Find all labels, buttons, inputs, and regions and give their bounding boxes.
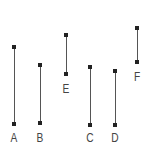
segment-e-bottom-endpoint <box>64 72 68 76</box>
segment-e-top-endpoint <box>64 33 68 37</box>
segment-f-bottom-endpoint <box>135 60 139 64</box>
segment-b-label: B <box>34 132 46 144</box>
segment-b-line <box>40 65 41 123</box>
segment-c-label: C <box>84 132 96 144</box>
segment-b-top-endpoint <box>38 63 42 67</box>
segment-f-line <box>137 28 138 62</box>
segment-f-top-endpoint <box>135 26 139 30</box>
segment-b-bottom-endpoint <box>38 121 42 125</box>
segment-d-bottom-endpoint <box>113 123 117 127</box>
segment-a-label: A <box>8 132 20 144</box>
segment-a-top-endpoint <box>12 45 16 49</box>
segment-diagram: A B E C D F <box>0 0 149 163</box>
segment-e-label: E <box>60 83 72 95</box>
segment-d-top-endpoint <box>113 69 117 73</box>
segment-c-bottom-endpoint <box>88 123 92 127</box>
segment-a-bottom-endpoint <box>12 122 16 126</box>
segment-d-line <box>115 71 116 125</box>
segment-f-label: F <box>131 71 143 83</box>
segment-c-line <box>90 67 91 125</box>
segment-e-line <box>66 35 67 74</box>
segment-c-top-endpoint <box>88 65 92 69</box>
segment-d-label: D <box>109 132 121 144</box>
segment-a-line <box>14 47 15 124</box>
